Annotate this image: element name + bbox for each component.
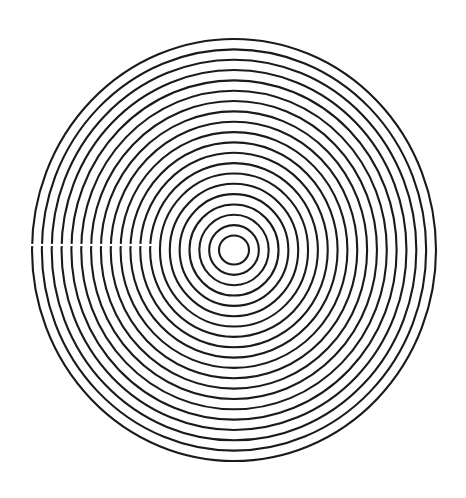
concentric-circles-figure <box>0 0 466 498</box>
horizontal-gap <box>26 244 152 246</box>
